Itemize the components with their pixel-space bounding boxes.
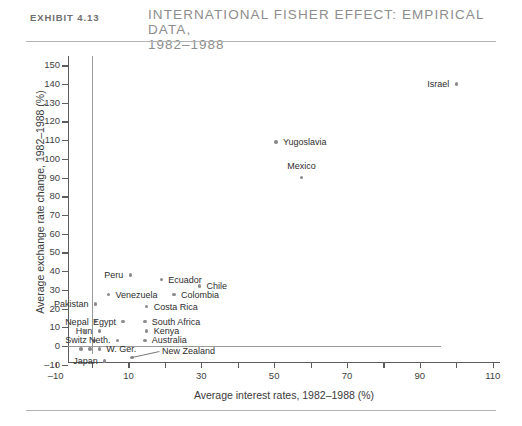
data-point-marker xyxy=(143,339,146,342)
data-point-marker xyxy=(300,176,303,179)
data-point-marker-unlabeled xyxy=(88,347,91,350)
y-tick-label: 150 xyxy=(28,59,60,69)
data-point-label: W. Ger. xyxy=(106,344,136,354)
y-axis-title: Average exchange rate change, 1982–1988 … xyxy=(34,77,46,327)
data-point-label: New Zealand xyxy=(162,346,215,356)
data-point-label: Australia xyxy=(152,335,187,345)
data-point-marker xyxy=(274,140,277,143)
x-axis-line xyxy=(68,362,500,363)
data-point-label: Japan xyxy=(73,356,98,366)
x-tick-label: 10 xyxy=(110,370,146,381)
x-tick-mark xyxy=(201,362,202,368)
x-tick-mark xyxy=(311,362,312,368)
y-tick-mark xyxy=(62,121,68,122)
data-point-marker xyxy=(198,284,201,287)
y-tick-mark xyxy=(62,252,68,253)
data-point-marker xyxy=(98,347,101,350)
x-tick-label: 90 xyxy=(402,370,438,381)
x-tick-label: 70 xyxy=(329,370,365,381)
data-point-label: Costa Rica xyxy=(154,302,198,312)
data-point-marker xyxy=(145,305,148,308)
data-point-label: Peru xyxy=(104,270,123,280)
x-tick-label: –10 xyxy=(38,370,74,381)
data-point-label: Yugoslavia xyxy=(283,137,327,147)
x-tick-label: 110 xyxy=(475,370,511,381)
data-point-marker xyxy=(129,273,132,276)
y-tick-mark xyxy=(62,65,68,66)
x-tick-mark xyxy=(383,362,384,368)
y-tick-mark xyxy=(62,178,68,179)
x-tick-mark xyxy=(493,362,494,368)
data-point-label: Venezuela xyxy=(115,290,157,300)
x-tick-mark xyxy=(347,362,348,368)
y-tick-label: 0 xyxy=(28,340,60,350)
data-point-marker xyxy=(145,329,148,332)
data-point-label: Switz xyxy=(65,335,87,345)
y-tick-mark xyxy=(62,140,68,141)
data-point-label: Egypt xyxy=(93,317,116,327)
data-point-label: Ecuador xyxy=(168,275,202,285)
y-tick-label-text: 0 xyxy=(34,340,60,351)
y-tick-mark xyxy=(62,159,68,160)
data-point-marker xyxy=(107,293,110,296)
x-tick-label: 50 xyxy=(256,370,292,381)
x-tick-mark xyxy=(238,362,239,368)
data-point-marker-unlabeled xyxy=(79,347,82,350)
x-axis-title: Average interest rates, 1982–1988 (%) xyxy=(68,389,500,401)
x-tick-mark xyxy=(456,362,457,368)
y-tick-mark xyxy=(62,346,68,347)
y-tick-mark xyxy=(62,103,68,104)
x-tick-mark xyxy=(420,362,421,368)
x-tick-mark xyxy=(165,362,166,368)
data-point-label: Israel xyxy=(427,79,449,89)
x-tick-label: 30 xyxy=(183,370,219,381)
data-point-marker xyxy=(116,339,119,342)
x-tick-mark xyxy=(128,362,129,368)
y-tick-label-text: 150 xyxy=(34,59,60,70)
y-tick-mark xyxy=(62,234,68,235)
y-tick-mark xyxy=(62,290,68,291)
data-point-label: Pakistan xyxy=(54,299,89,309)
y-tick-mark xyxy=(62,196,68,197)
exhibit-figure: Exhibit 4.13 International Fisher Effect… xyxy=(0,0,522,426)
x-tick-mark xyxy=(274,362,275,368)
scatter-plot: –100102030405060708090100110120130140150… xyxy=(0,0,522,426)
x-zero-reference-line xyxy=(92,56,93,354)
data-point-marker xyxy=(143,320,146,323)
data-point-marker xyxy=(455,82,458,85)
y-tick-mark xyxy=(62,215,68,216)
y-tick-mark xyxy=(62,327,68,328)
y-tick-mark xyxy=(62,271,68,272)
x-tick-mark xyxy=(56,362,57,368)
data-point-marker xyxy=(98,329,101,332)
data-point-marker xyxy=(172,293,175,296)
data-point-marker xyxy=(160,278,163,281)
data-point-marker xyxy=(94,302,97,305)
data-point-label: Mexico xyxy=(287,161,316,171)
y-tick-mark xyxy=(62,365,68,366)
data-point-marker xyxy=(121,320,124,323)
data-point-label: Colombia xyxy=(181,290,219,300)
y-tick-mark xyxy=(62,84,68,85)
